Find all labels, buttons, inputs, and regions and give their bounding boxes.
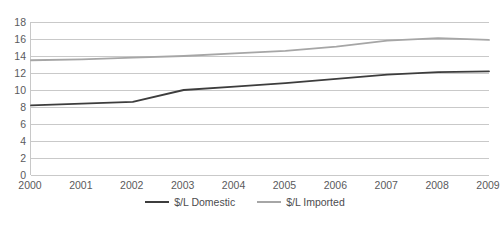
legend-line-swatch bbox=[145, 201, 169, 203]
plot-wrapper: 181614121086420 bbox=[0, 0, 490, 180]
plot-area bbox=[30, 22, 489, 175]
legend-item[interactable]: $/L Imported bbox=[257, 196, 345, 208]
y-tick-label: 14 bbox=[0, 51, 26, 61]
y-tick-label: 18 bbox=[0, 17, 26, 27]
y-tick-label: 6 bbox=[0, 119, 26, 129]
y-tick-label: 10 bbox=[0, 85, 26, 95]
y-axis: 181614121086420 bbox=[0, 0, 26, 180]
x-tick-label: 2008 bbox=[425, 179, 448, 191]
y-tick-label: 2 bbox=[0, 153, 26, 163]
series-layer bbox=[31, 22, 489, 175]
x-tick-label: 2004 bbox=[222, 179, 245, 191]
x-tick-label: 2007 bbox=[375, 179, 398, 191]
y-tick-label: 8 bbox=[0, 102, 26, 112]
series-line bbox=[31, 38, 489, 60]
x-tick-label: 2001 bbox=[69, 179, 92, 191]
x-tick-label: 2009 bbox=[476, 179, 499, 191]
x-tick-label: 2006 bbox=[324, 179, 347, 191]
series-line bbox=[31, 71, 489, 105]
y-tick-label: 12 bbox=[0, 68, 26, 78]
legend-label: $/L Domestic bbox=[174, 196, 235, 208]
y-tick-label: 4 bbox=[0, 136, 26, 146]
x-tick-label: 2003 bbox=[171, 179, 194, 191]
x-tick-label: 2000 bbox=[18, 179, 41, 191]
gridline bbox=[31, 175, 489, 176]
x-tick-label: 2005 bbox=[273, 179, 296, 191]
legend-item[interactable]: $/L Domestic bbox=[145, 196, 235, 208]
chart-legend: $/L Domestic$/L Imported bbox=[0, 196, 490, 208]
legend-label: $/L Imported bbox=[286, 196, 345, 208]
y-tick-label: 16 bbox=[0, 34, 26, 44]
x-tick-label: 2002 bbox=[120, 179, 143, 191]
legend-line-swatch bbox=[257, 201, 281, 203]
